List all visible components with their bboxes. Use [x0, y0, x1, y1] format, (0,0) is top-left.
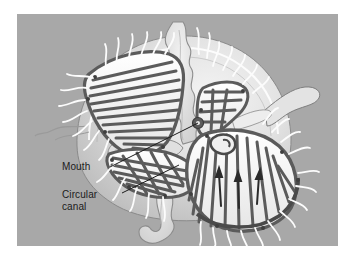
illustration-panel: Mouth Circular canal — [17, 14, 338, 246]
mouth-ring — [211, 135, 236, 154]
figure-root: Mouth Circular canal — [0, 0, 353, 261]
label-mouth: Mouth — [62, 161, 90, 173]
label-circular-canal: Circular canal — [62, 189, 97, 212]
